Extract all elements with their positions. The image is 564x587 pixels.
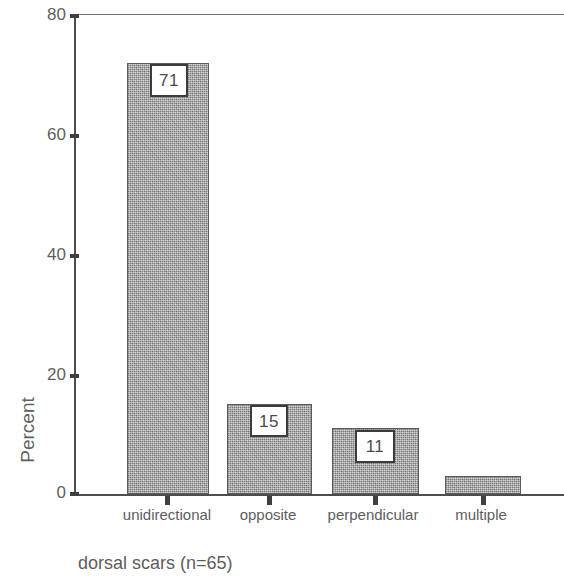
x-axis-line [74,494,564,496]
y-axis-label-20: 20 [10,366,66,383]
x-axis-label-perpendicular: perpendicular [307,506,439,524]
x-axis-label-multiple: multiple [432,506,530,524]
value-label-perpendicular: 11 [355,430,395,463]
y-axis-label-40: 40 [10,246,66,263]
x-axis-tick-multiple [481,496,486,505]
y-axis-label-80: 80 [10,6,66,23]
bar-chart: Percent 80 60 40 20 0 71 15 11 unidirect… [0,0,564,587]
value-label-opposite: 15 [250,405,288,437]
bar-multiple [445,476,521,494]
y-axis-tick-60 [70,134,79,138]
x-axis-tick-perpendicular [373,496,378,505]
x-axis-tick-unidirectional [165,496,170,505]
value-label-unidirectional: 71 [150,64,188,97]
bar-unidirectional [127,63,209,494]
plot-top-rule [74,14,564,15]
y-axis-tick-0 [70,492,79,496]
y-axis-tick-40 [70,254,79,258]
chart-caption: dorsal scars (n=65) [78,552,233,574]
y-axis-tick-20 [70,374,79,378]
y-axis-title: Percent [16,380,40,480]
y-axis-tick-80 [70,14,79,18]
y-axis-label-60: 60 [10,126,66,143]
x-axis-tick-opposite [267,496,272,505]
y-axis-label-0: 0 [10,484,66,501]
